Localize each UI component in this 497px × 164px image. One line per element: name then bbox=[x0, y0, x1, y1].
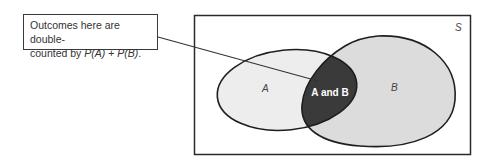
set-b-label: B bbox=[391, 82, 398, 93]
intersection-label: A and B bbox=[311, 87, 348, 98]
callout-period: . bbox=[138, 47, 141, 59]
sample-space-label: S bbox=[455, 22, 462, 33]
callout-line-2: counted by P(A) + P(B). bbox=[30, 46, 157, 60]
callout-text-prefix: counted by bbox=[30, 47, 84, 59]
callout-pb: P(B) bbox=[117, 47, 138, 59]
callout-plus: + bbox=[105, 47, 117, 59]
set-a-label: A bbox=[261, 83, 269, 94]
callout-pa: P(A) bbox=[84, 47, 105, 59]
venn-diagram-figure: S A B A and B Outcomes here are double- … bbox=[0, 0, 497, 164]
callout-line-1: Outcomes here are double- bbox=[30, 18, 157, 46]
callout-box: Outcomes here are double- counted by P(A… bbox=[23, 14, 158, 50]
